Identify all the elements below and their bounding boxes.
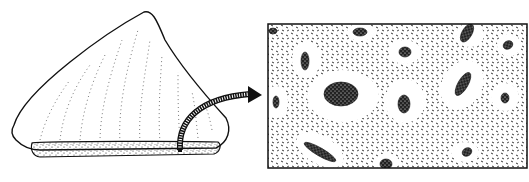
illustration xyxy=(0,0,529,182)
bone-fragment xyxy=(12,12,229,157)
canal xyxy=(324,82,358,106)
histology-inset xyxy=(264,22,527,175)
cut-surface xyxy=(31,141,220,157)
figure xyxy=(0,0,529,182)
